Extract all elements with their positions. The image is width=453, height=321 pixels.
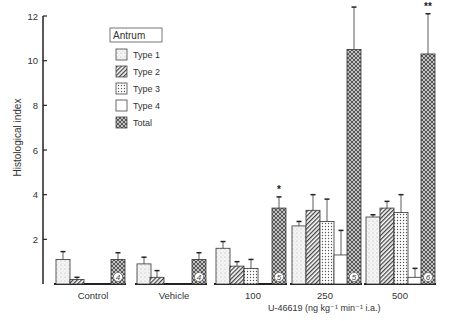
bar-type-4	[408, 277, 422, 284]
bar-chart: 24681012 4Control4Vehicle5*1005**2506**5…	[0, 0, 453, 321]
x-category-label: 250	[317, 290, 333, 301]
legend-label: Type 1	[133, 50, 160, 60]
y-tick-label: 12	[27, 11, 38, 22]
x-category-label: Control	[78, 290, 109, 301]
n-label: 5	[352, 273, 357, 282]
bar-type-4	[334, 255, 348, 284]
bar-type-2	[230, 266, 244, 284]
bar-total	[421, 54, 435, 284]
bar-type-1	[366, 217, 380, 284]
y-tick-label: 6	[33, 145, 38, 156]
legend-label: Total	[133, 118, 152, 128]
y-axis-label: Histological index	[12, 83, 23, 193]
legend-swatch	[116, 117, 127, 128]
n-label: 6	[426, 273, 431, 282]
bar-type-2	[306, 210, 320, 284]
legend-label: Type 2	[133, 67, 160, 77]
bar-type-1	[137, 264, 151, 284]
y-tick-label: 4	[33, 189, 38, 200]
x-category-label: 100	[245, 290, 261, 301]
bar-total	[347, 50, 361, 285]
n-label: 4	[197, 273, 202, 282]
x-axis-label: U-46619 (ng kg⁻¹ min⁻¹ i.a.)	[268, 303, 381, 313]
legend-swatch	[116, 49, 127, 60]
legend-label: Type 3	[133, 84, 160, 94]
legend-swatch	[116, 100, 127, 111]
n-label: 4	[116, 273, 121, 282]
legend: AntrumType 1Type 2Type 3Type 4Total	[110, 28, 162, 128]
bar-type-2	[150, 277, 164, 284]
bar-type-2	[380, 208, 394, 284]
bar-type-1	[216, 248, 230, 284]
legend-swatch	[116, 66, 127, 77]
significance-marker: **	[350, 0, 358, 5]
bar-type-3	[320, 221, 334, 284]
significance-marker: *	[277, 184, 281, 195]
bar-type-3	[394, 213, 408, 284]
bar-type-2	[70, 280, 84, 284]
axes: 24681012	[27, 11, 47, 285]
y-tick-label: 8	[33, 100, 38, 111]
significance-marker: **	[424, 1, 432, 12]
bars: 4Control4Vehicle5*1005**2506**500	[54, 0, 436, 301]
bar-type-1	[292, 226, 306, 284]
bar-type-1	[56, 259, 70, 284]
x-category-label: 500	[392, 290, 408, 301]
n-label: 5	[277, 273, 282, 282]
bar-type-3	[244, 268, 258, 284]
legend-title: Antrum	[113, 30, 145, 41]
y-tick-label: 2	[33, 234, 38, 245]
x-category-label: Vehicle	[159, 290, 190, 301]
legend-swatch	[116, 83, 127, 94]
legend-label: Type 4	[133, 101, 160, 111]
y-tick-label: 10	[27, 55, 38, 66]
